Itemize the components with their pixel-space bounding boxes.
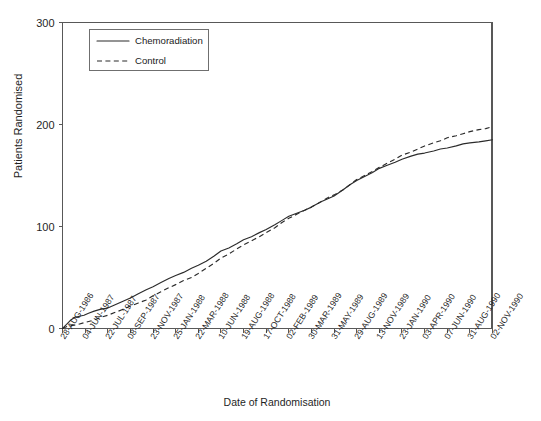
series-group bbox=[63, 127, 493, 329]
y-tick-label: 200 bbox=[36, 119, 54, 131]
y-axis-title: Patients Randomised bbox=[12, 61, 24, 191]
chart-container: 0100200300 28-AUG-198604-JUN-198722-JUL-… bbox=[0, 0, 541, 421]
legend-swatch-solid-icon bbox=[96, 35, 130, 47]
y-tick-label-group: 0100200300 bbox=[36, 17, 54, 335]
legend-swatch-dashed-icon bbox=[96, 55, 130, 67]
legend-item-control: Control bbox=[90, 50, 208, 71]
y-tick-label: 0 bbox=[48, 323, 54, 335]
plot-canvas: 0100200300 bbox=[0, 0, 541, 421]
series-line-chemoradiation bbox=[63, 140, 493, 329]
y-tick-group bbox=[59, 23, 63, 329]
y-tick-label: 100 bbox=[36, 221, 54, 233]
legend-label: Chemoradiation bbox=[135, 35, 203, 46]
x-axis-title: Date of Randomisation bbox=[62, 396, 492, 408]
y-tick-label: 300 bbox=[36, 17, 54, 29]
legend: Chemoradiation Control bbox=[89, 29, 209, 71]
series-line-control bbox=[63, 127, 493, 329]
legend-item-chemoradiation: Chemoradiation bbox=[90, 30, 208, 51]
legend-label: Control bbox=[135, 55, 166, 66]
x-tick-group bbox=[63, 329, 493, 333]
